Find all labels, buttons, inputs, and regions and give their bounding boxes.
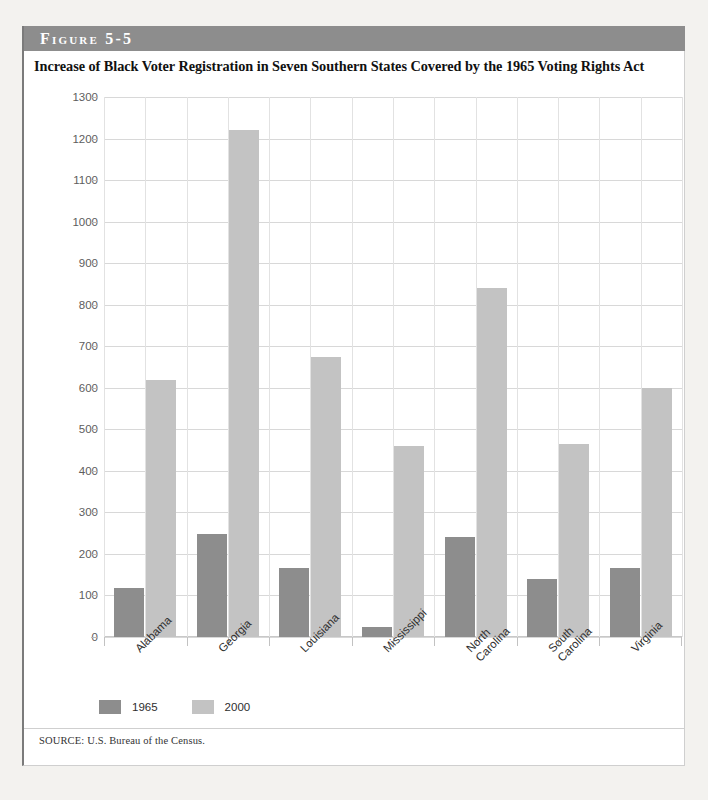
y-axis-tick-mark [91,471,98,472]
source-note: SOURCE: U.S. Bureau of the Census. [39,735,205,746]
x-axis-tick-mark [681,637,682,646]
y-axis-tick-column: Number of voters (in thousands) 01002003… [46,97,98,637]
figure-number-label: Figure 5-5 [24,30,133,48]
chart-title: Increase of Black Voter Registration in … [34,58,674,75]
gridline-vertical [682,97,683,637]
gridline-vertical [599,97,600,637]
y-axis-tick-mark [91,222,98,223]
chart-legend: 19652000 [99,700,284,714]
y-axis-tick-mark [91,554,98,555]
y-axis-tick-mark [91,180,98,181]
y-axis-tick-mark [91,595,98,596]
bar-south-carolina-1965 [527,579,557,637]
gridline-vertical [269,97,270,637]
x-axis-tick-mark [352,637,353,646]
gridline-vertical [104,97,105,637]
x-axis-tick-mark [599,637,600,646]
legend-item-2000: 2000 [192,700,251,714]
legend-item-1965: 1965 [99,700,158,714]
x-axis-tick-mark [104,637,105,646]
y-axis-tick-mark [91,346,98,347]
y-axis-tick-mark [91,97,98,98]
legend-swatch-1965 [99,700,121,714]
gridline-vertical [352,97,353,637]
source-divider [24,728,684,729]
bar-louisiana-1965 [279,568,309,637]
bar-south-carolina-2000 [559,444,589,637]
y-axis-tick-mark [91,139,98,140]
bar-alabama-2000 [146,380,176,637]
bar-georgia-1965 [197,534,227,637]
bar-alabama-1965 [114,588,144,637]
gridline-vertical [434,97,435,637]
y-axis-tick-mark [91,637,98,638]
x-axis-tick-mark [187,637,188,646]
bar-louisiana-2000 [311,357,341,637]
y-axis-tick-mark [91,512,98,513]
legend-swatch-2000 [192,700,214,714]
bar-north-carolina-1965 [445,537,475,637]
y-axis-tick-mark [91,305,98,306]
bar-north-carolina-2000 [477,288,507,637]
x-axis-tick-mark [434,637,435,646]
gridline-vertical [187,97,188,637]
x-axis-tick-mark [269,637,270,646]
gridline-vertical [517,97,518,637]
legend-label-1965: 1965 [132,701,158,713]
plot-area [104,97,682,637]
figure-banner: Figure 5-5 [24,26,685,51]
x-axis-tick-mark [517,637,518,646]
y-axis-tick-mark [91,388,98,389]
y-axis-tick-mark [91,429,98,430]
bar-virginia-1965 [610,568,640,637]
bar-georgia-2000 [229,130,259,637]
legend-label-2000: 2000 [225,701,251,713]
bar-mississippi-1965 [362,627,392,637]
page-background: Figure 5-5 Increase of Black Voter Regis… [0,0,708,800]
bar-virginia-2000 [642,388,672,637]
y-axis-tick-mark [91,263,98,264]
